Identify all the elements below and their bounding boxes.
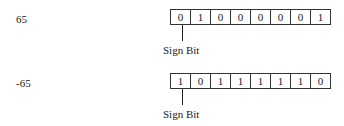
bit-cell: 1 (211, 74, 231, 88)
sign-bit-label: Sign Bit (163, 44, 199, 56)
bit-cell: 0 (171, 10, 191, 24)
bit-register-positive: 0 1 0 0 0 0 0 1 (170, 9, 331, 25)
sign-bit-pointer-line (182, 89, 183, 105)
bit-cell: 0 (231, 10, 251, 24)
bit-cell: 0 (211, 10, 231, 24)
bit-cell: 1 (311, 10, 330, 24)
bit-cell: 1 (231, 74, 251, 88)
bit-cell: 0 (291, 10, 311, 24)
bit-cell: 0 (271, 10, 291, 24)
number-label-negative: -65 (16, 77, 31, 89)
number-label-positive: 65 (16, 13, 27, 25)
bit-cell: 0 (251, 10, 271, 24)
bit-cell: 1 (191, 10, 211, 24)
sign-bit-pointer-line (182, 25, 183, 41)
bit-cell: 1 (251, 74, 271, 88)
bit-cell: 1 (271, 74, 291, 88)
bit-cell: 0 (191, 74, 211, 88)
bit-cell: 1 (171, 74, 191, 88)
bit-register-negative: 1 0 1 1 1 1 1 0 (170, 73, 331, 89)
bit-cell: 1 (291, 74, 311, 88)
bit-cell: 0 (311, 74, 330, 88)
sign-bit-label: Sign Bit (163, 108, 199, 120)
